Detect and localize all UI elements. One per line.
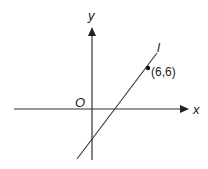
line-label: l (157, 40, 161, 55)
x-axis-label: x (192, 102, 200, 117)
origin-label: O (75, 95, 85, 110)
point-label: (6,6) (151, 65, 176, 79)
y-axis-label: y (87, 8, 96, 23)
point-6-6 (146, 66, 150, 70)
line-l (77, 53, 157, 159)
y-axis-arrow-icon (88, 27, 96, 36)
x-axis-arrow-icon (180, 105, 189, 113)
coordinate-diagram: y x O l (6,6) (0, 0, 208, 169)
